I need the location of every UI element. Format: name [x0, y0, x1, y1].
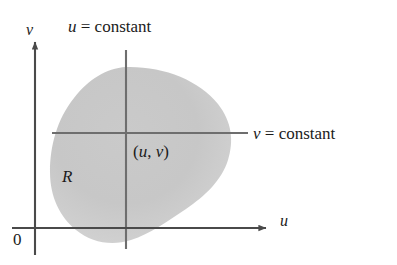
label-u-constant-value: constant	[95, 17, 152, 36]
label-axis-v: v	[26, 22, 33, 38]
point-comma: ,	[147, 142, 156, 161]
label-v-constant: v = constant	[253, 125, 335, 142]
label-region-r: R	[62, 168, 72, 185]
point-u: u	[139, 142, 148, 161]
label-axis-u: u	[280, 213, 288, 229]
label-v-constant-variable: v	[253, 124, 261, 143]
label-u-constant: u = constant	[68, 18, 151, 35]
point-close-paren: )	[163, 142, 169, 161]
label-point-uv: (u, v)	[133, 143, 169, 160]
label-u-constant-variable: u	[68, 17, 77, 36]
label-u-constant-relation: =	[77, 17, 95, 36]
label-v-constant-relation: =	[261, 124, 279, 143]
uv-plane-region-figure: u = constant v = constant (u, v) R v u 0	[0, 0, 397, 265]
label-origin: 0	[13, 231, 22, 248]
label-v-constant-value: constant	[279, 124, 336, 143]
diagram-canvas	[0, 0, 397, 265]
